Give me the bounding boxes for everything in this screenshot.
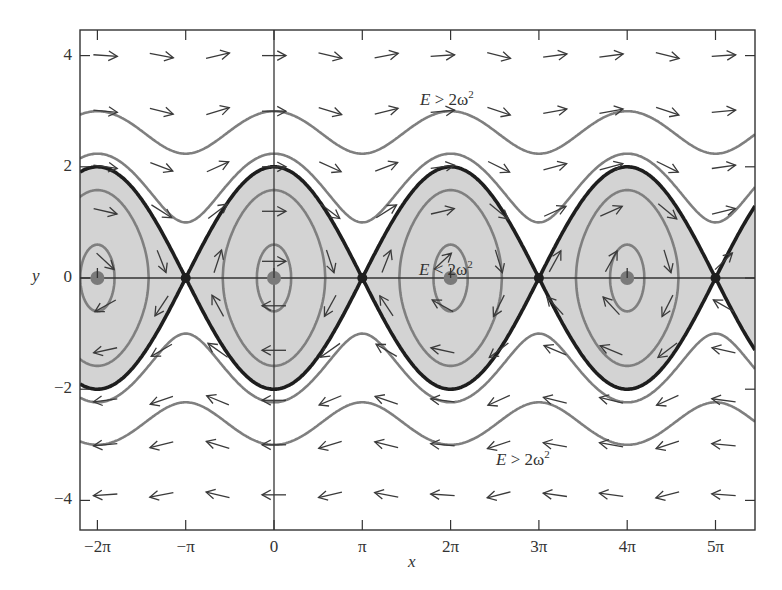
x-tick-label: −π: [177, 537, 195, 557]
arrow-shaft: [431, 55, 455, 57]
arrow-icon: [543, 106, 567, 115]
arrow-icon: [207, 161, 229, 172]
arrow-icon: [543, 161, 566, 170]
arrow-icon: [656, 491, 679, 500]
arrow-icon: [150, 441, 173, 450]
arrow-icon: [375, 395, 398, 404]
arrow-icon: [488, 395, 510, 406]
saddle-fixed-point: [534, 273, 544, 283]
arrow-icon: [206, 439, 229, 448]
arrow-icon: [487, 52, 510, 61]
arrow-icon: [375, 50, 399, 59]
arrow-icon: [93, 51, 117, 61]
arrow-icon: [319, 441, 342, 450]
arrow-icon: [206, 50, 229, 59]
arrow-icon: [375, 161, 397, 171]
arrow-icon: [599, 490, 623, 499]
arrow-shaft: [431, 494, 455, 496]
arrow-icon: [712, 162, 736, 171]
arrow-icon: [376, 344, 397, 356]
arrow-shaft: [712, 494, 736, 496]
y-tick-label: 4: [32, 45, 72, 65]
arrow-icon: [319, 108, 342, 117]
x-tick-label: −2π: [84, 537, 111, 557]
arrow-icon: [712, 345, 735, 354]
x-tick-label: 5π: [707, 537, 724, 557]
x-tick-label: 3π: [530, 537, 547, 557]
arrow-icon: [712, 440, 736, 450]
arrow-icon: [150, 163, 172, 173]
rotating-orbit-curve: [80, 402, 755, 445]
arrow-icon: [431, 490, 455, 500]
saddle-fixed-point: [711, 273, 721, 283]
arrow-icon: [657, 395, 679, 406]
arrow-icon: [487, 491, 510, 500]
saddle-fixed-point: [357, 273, 367, 283]
y-tick-label: 2: [32, 156, 72, 176]
arrow-icon: [150, 51, 174, 60]
arrow-icon: [151, 344, 172, 356]
arrow-icon: [712, 51, 736, 61]
arrow-icon: [207, 395, 229, 405]
arrow-icon: [150, 396, 173, 405]
y-tick-label: −4: [32, 489, 72, 509]
lower-rotation-region-label: E > 2ω2: [496, 448, 550, 470]
arrow-icon: [150, 107, 173, 116]
arrow-icon: [375, 439, 398, 448]
upper-rotation-region-label: E > 2ω2: [420, 88, 474, 110]
y-axis-label: y: [32, 266, 40, 286]
saddle-fixed-point: [181, 273, 191, 283]
arrow-icon: [712, 106, 736, 116]
arrow-icon: [656, 52, 679, 61]
arrow-icon: [375, 490, 399, 499]
arrow-icon: [712, 490, 736, 500]
arrow-icon: [375, 106, 398, 115]
arrow-icon: [431, 51, 455, 61]
arrow-icon: [488, 161, 510, 172]
arrow-icon: [656, 107, 679, 116]
arrow-icon: [319, 162, 341, 173]
arrow-icon: [487, 107, 510, 116]
arrow-icon: [319, 52, 342, 61]
y-tick-label: −2: [32, 378, 72, 398]
arrow-shaft: [93, 55, 117, 57]
x-tick-label: π: [358, 537, 367, 557]
arrow-icon: [93, 490, 117, 500]
libration-region-label: E < 2ω2: [419, 258, 473, 280]
x-axis-label: x: [408, 552, 416, 572]
arrow-icon: [543, 490, 567, 499]
x-tick-label: 0: [270, 537, 279, 557]
arrow-icon: [319, 396, 341, 406]
arrow-shaft: [93, 494, 117, 496]
arrow-icon: [319, 491, 342, 500]
x-tick-label: 4π: [619, 537, 636, 557]
arrow-icon: [206, 106, 229, 115]
arrow-icon: [150, 491, 174, 500]
arrow-shaft: [712, 55, 736, 57]
phase-portrait-plot: [0, 0, 782, 590]
arrow-icon: [543, 50, 567, 60]
rotating-orbit-curve: [80, 111, 755, 154]
arrow-icon: [599, 50, 623, 60]
arrow-icon: [656, 441, 679, 450]
x-tick-label: 2π: [442, 537, 459, 557]
arrow-icon: [206, 489, 229, 498]
